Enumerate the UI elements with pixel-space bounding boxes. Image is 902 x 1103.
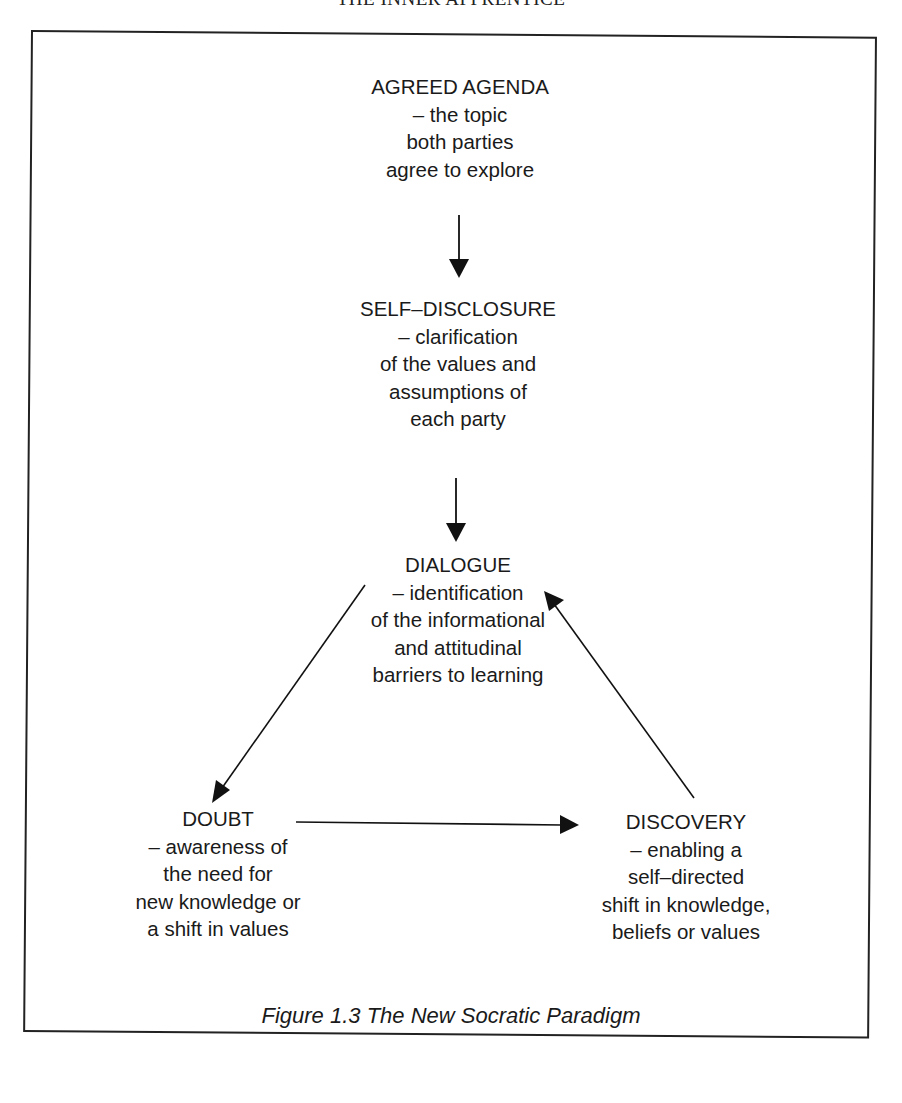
figure-caption: Figure 1.3 The New Socratic Paradigm (0, 1003, 902, 1029)
node-text: both parties (371, 128, 549, 156)
node-self-disclosure: SELF–DISCLOSURE – clarification of the v… (360, 295, 556, 433)
node-text: – clarification (360, 323, 556, 351)
node-title: DIALOGUE (371, 551, 545, 579)
node-text: shift in knowledge, (602, 891, 771, 919)
arrow-dialogue-to-doubt (212, 585, 365, 803)
node-doubt: DOUBT – awareness of the need for new kn… (135, 805, 300, 943)
node-text: assumptions of (360, 378, 556, 406)
node-dialogue: DIALOGUE – identification of the informa… (371, 551, 545, 689)
arrowhead-down-left-icon (212, 780, 230, 803)
node-text: new knowledge or (135, 888, 300, 916)
node-text: – the topic (371, 101, 549, 129)
arrow-disclosure-to-dialogue (446, 478, 466, 542)
node-title: DISCOVERY (602, 808, 771, 836)
node-text: – enabling a (602, 836, 771, 864)
arrow-doubt-to-discovery (296, 815, 579, 834)
node-title: DOUBT (135, 805, 300, 833)
node-text: a shift in values (135, 915, 300, 943)
node-text: barriers to learning (371, 661, 545, 689)
node-agreed-agenda: AGREED AGENDA – the topic both parties a… (371, 73, 549, 183)
node-text: self–directed (602, 863, 771, 891)
node-title: AGREED AGENDA (371, 73, 549, 101)
node-text: of the informational (371, 606, 545, 634)
node-text: – identification (371, 579, 545, 607)
arrowhead-up-left-icon (544, 591, 564, 611)
arrowhead-down-icon (446, 523, 466, 542)
node-text: each party (360, 405, 556, 433)
arrowhead-right-icon (560, 815, 579, 834)
node-text: – awareness of (135, 833, 300, 861)
node-discovery: DISCOVERY – enabling a self–directed shi… (602, 808, 771, 946)
arrowhead-down-icon (449, 259, 469, 278)
node-text: agree to explore (371, 156, 549, 184)
node-title: SELF–DISCLOSURE (360, 295, 556, 323)
node-text: and attitudinal (371, 634, 545, 662)
node-text: of the values and (360, 350, 556, 378)
arrow-discovery-to-dialogue (544, 591, 694, 798)
node-text: the need for (135, 860, 300, 888)
arrow-agenda-to-disclosure (449, 215, 469, 278)
node-text: beliefs or values (602, 918, 771, 946)
